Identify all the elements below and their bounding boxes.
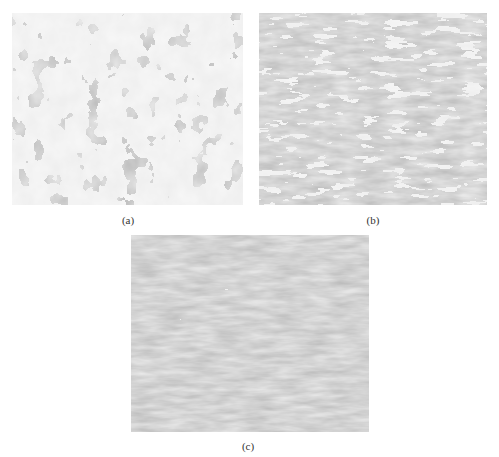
micrograph-b: [259, 13, 487, 205]
caption-c: (c): [228, 440, 268, 452]
caption-b: (b): [353, 214, 393, 226]
micrograph-c: [131, 235, 369, 432]
micrograph-a: [12, 13, 243, 205]
micrograph-b-texture: [259, 13, 487, 205]
micrograph-c-texture: [131, 235, 369, 432]
micrograph-a-texture: [12, 13, 243, 205]
caption-a: (a): [108, 214, 148, 226]
